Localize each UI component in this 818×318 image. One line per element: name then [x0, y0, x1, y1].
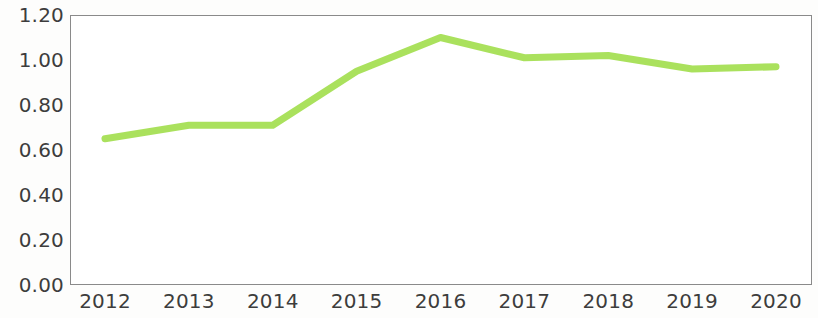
- x-tick-label: 2014: [247, 291, 299, 311]
- y-tick-label: 0.80: [0, 95, 64, 115]
- x-tick-label: 2012: [79, 291, 131, 311]
- x-axis-tick-labels: 201220132014201520162017201820192020: [0, 291, 818, 318]
- y-tick-label: 0.60: [0, 140, 64, 160]
- line-chart: 0.000.200.400.600.801.001.20 20122013201…: [0, 0, 818, 318]
- x-tick-label: 2013: [163, 291, 215, 311]
- x-tick-label: 2018: [582, 291, 634, 311]
- y-tick-label: 1.20: [0, 5, 64, 25]
- y-tick-label: 1.00: [0, 50, 64, 70]
- x-tick-label: 2016: [415, 291, 467, 311]
- x-tick-label: 2015: [331, 291, 383, 311]
- x-tick-label: 2019: [666, 291, 718, 311]
- y-tick-label: 0.40: [0, 185, 64, 205]
- x-tick-label: 2017: [499, 291, 551, 311]
- series-1-line: [105, 38, 776, 139]
- plot-series-layer: [70, 15, 812, 285]
- y-axis-tick-labels: 0.000.200.400.600.801.001.20: [0, 0, 64, 318]
- y-tick-label: 0.20: [0, 230, 64, 250]
- x-tick-label: 2020: [750, 291, 802, 311]
